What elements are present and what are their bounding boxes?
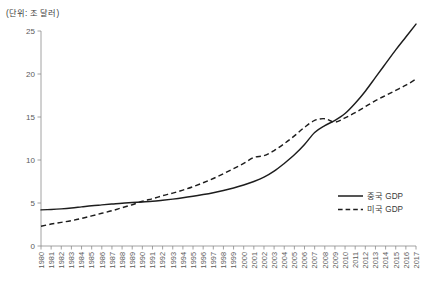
- chart-plot-area: 0510152025 19801981198219831984198519861…: [0, 0, 434, 282]
- x-tick-label: 2004: [280, 252, 289, 268]
- x-tick-label: 2016: [402, 252, 411, 268]
- x-tick-label: 2006: [300, 252, 309, 268]
- x-tick-group: 1980198119821983198419851986198719881989…: [37, 246, 421, 268]
- x-tick-label: 2003: [270, 252, 279, 268]
- y-tick-label: 20: [26, 70, 35, 79]
- y-tick-label: 0: [31, 242, 36, 251]
- legend-label-usa: 미국 GDP: [367, 205, 404, 214]
- x-tick-label: 2011: [351, 252, 360, 268]
- x-tick-label: 1997: [209, 252, 218, 268]
- y-tick-label: 10: [26, 156, 35, 165]
- y-axis: 0510152025: [26, 27, 41, 251]
- x-tick-label: 1989: [128, 252, 137, 268]
- y-tick-label: 5: [31, 199, 36, 208]
- x-tick-label: 1985: [87, 252, 96, 268]
- series-line-usa-gdp: [41, 79, 416, 226]
- x-tick-label: 2015: [392, 252, 401, 268]
- x-tick-label: 2010: [341, 252, 350, 268]
- x-tick-label: 1988: [118, 252, 127, 268]
- x-tick-label: 2012: [361, 252, 370, 268]
- chart-legend: 중국 GDP미국 GDP: [338, 192, 404, 215]
- x-tick-label: 2001: [250, 252, 259, 268]
- y-tick-label: 15: [26, 113, 35, 122]
- x-tick-label: 2005: [290, 252, 299, 268]
- x-tick-label: 1996: [199, 252, 208, 268]
- x-tick-label: 1982: [57, 252, 66, 268]
- x-tick-label: 1980: [37, 252, 46, 268]
- x-tick-label: 1981: [47, 252, 56, 268]
- x-axis: 1980198119821983198419851986198719881989…: [37, 246, 421, 268]
- x-tick-label: 1999: [229, 252, 238, 268]
- x-tick-label: 1993: [169, 252, 178, 268]
- x-tick-label: 1983: [67, 252, 76, 268]
- x-tick-label: 1987: [108, 252, 117, 268]
- x-tick-label: 1998: [219, 252, 228, 268]
- x-tick-label: 2017: [412, 252, 421, 268]
- x-tick-label: 2000: [240, 252, 249, 268]
- legend-label-china: 중국 GDP: [367, 192, 404, 201]
- x-tick-label: 1984: [77, 252, 86, 268]
- x-tick-label: 2014: [381, 252, 390, 268]
- x-tick-label: 1986: [98, 252, 107, 268]
- x-tick-label: 2002: [260, 252, 269, 268]
- x-tick-label: 2009: [331, 252, 340, 268]
- y-tick-label: 25: [26, 27, 35, 36]
- x-tick-label: 2008: [321, 252, 330, 268]
- gdp-line-chart: (단위: 조 달러) 0510152025 198019811982198319…: [0, 0, 434, 282]
- x-tick-label: 2013: [371, 252, 380, 268]
- x-tick-label: 1994: [179, 252, 188, 268]
- x-tick-label: 1995: [189, 252, 198, 268]
- x-tick-label: 1991: [148, 252, 157, 268]
- series-line-china-gdp: [41, 24, 416, 210]
- y-tick-group: 0510152025: [26, 27, 41, 251]
- x-tick-label: 2007: [310, 252, 319, 268]
- x-tick-label: 1992: [158, 252, 167, 268]
- x-tick-label: 1990: [138, 252, 147, 268]
